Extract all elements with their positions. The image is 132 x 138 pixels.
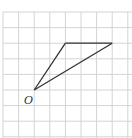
grid-lines <box>3 12 132 138</box>
grid-triangle-diagram: O <box>0 0 132 138</box>
triangle <box>34 43 112 90</box>
origin-label: O <box>24 94 33 107</box>
segment-OB <box>34 43 112 90</box>
